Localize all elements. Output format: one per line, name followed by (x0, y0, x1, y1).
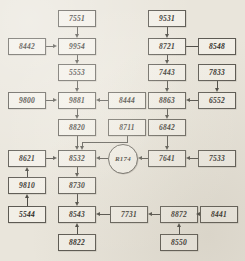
node-8550[interactable]: 8550 (160, 234, 198, 251)
arrowhead-9810-8621 (25, 167, 29, 171)
node-8442[interactable]: 8442 (8, 38, 46, 55)
node-9800[interactable]: 9800 (8, 92, 46, 109)
node-label: R174 (115, 155, 131, 162)
node-9954[interactable]: 9954 (58, 38, 96, 55)
node-8543[interactable]: 8543 (58, 206, 96, 223)
node-8820[interactable]: 8820 (58, 119, 96, 136)
node-label: 8863 (159, 97, 175, 105)
node-label: 9531 (159, 15, 175, 22)
node-8441[interactable]: 8441 (200, 206, 238, 223)
arrowhead-9800-9881 (53, 98, 57, 102)
edge-7443-8863 (167, 81, 168, 88)
node-9531[interactable]: 9531 (148, 10, 186, 27)
node-8730[interactable]: 8730 (58, 177, 96, 194)
node-8548[interactable]: 8548 (198, 38, 236, 55)
node-label: 8550 (171, 239, 187, 247)
node-8872[interactable]: 8872 (160, 206, 198, 223)
node-label: 8820 (69, 124, 85, 132)
node-7641[interactable]: 7641 (148, 150, 186, 167)
arrowhead-9881-8820 (75, 115, 79, 119)
arrowhead-5544-9810 (25, 194, 29, 198)
arrowhead-8863-6842 (165, 115, 169, 119)
arrowhead-8711-8532 (80, 146, 84, 150)
node-label: 8442 (19, 43, 35, 51)
node-label: 9954 (69, 43, 85, 51)
node-label: 6552 (209, 97, 225, 105)
node-9881[interactable]: 9881 (58, 92, 96, 109)
arrowhead-7443-8863 (165, 88, 169, 92)
node-8621[interactable]: 8621 (8, 150, 46, 167)
node-8822[interactable]: 8822 (58, 234, 96, 251)
node-8721[interactable]: 8721 (148, 38, 186, 55)
node-label: 7533 (209, 155, 225, 163)
arrowhead-7641-R174 (138, 156, 142, 160)
edge-8822-8543 (77, 227, 78, 234)
node-label: 5553 (69, 69, 85, 77)
node-label: 8872 (171, 211, 187, 219)
node-label: 8621 (19, 155, 35, 163)
arrowhead-8550-8872 (177, 223, 181, 227)
arrowhead-8621-8532 (53, 156, 57, 160)
flowchart-canvas: 7551 8442 9954 5553 9800 9881 8444 8820 … (0, 0, 245, 261)
node-8711[interactable]: 8711 (108, 119, 146, 136)
node-label: 7641 (159, 155, 175, 163)
arrowhead-7833-6552 (215, 88, 219, 92)
arrowhead-6552-8863 (186, 98, 190, 102)
edge-6552-8863 (190, 100, 198, 101)
arrowhead-6842-7641 (165, 146, 169, 150)
edge-7533-7641 (190, 158, 198, 159)
node-label: 7551 (69, 15, 85, 22)
node-label: 5544 (19, 211, 35, 219)
arrowhead-8872-7731 (148, 212, 152, 216)
arrowhead-8444-9881 (96, 98, 100, 102)
edge-8730-8543 (77, 194, 78, 202)
node-label: 8532 (69, 155, 85, 163)
arrowhead-8721-7443 (165, 60, 169, 64)
node-label: 9810 (19, 182, 35, 190)
arrowhead-8441-8872 (196, 212, 200, 216)
edge-R174-8532 (100, 158, 108, 159)
edge-8820-8532 (77, 136, 78, 146)
arrowhead-8730-8543 (75, 202, 79, 206)
node-6842[interactable]: 6842 (148, 119, 186, 136)
node-8532[interactable]: 8532 (58, 150, 96, 167)
edge-5553-9881 (77, 81, 78, 88)
node-label: 8822 (69, 239, 85, 247)
node-6552[interactable]: 6552 (198, 92, 236, 109)
node-label: 8730 (69, 182, 85, 190)
node-8863[interactable]: 8863 (148, 92, 186, 109)
node-label: 7443 (159, 69, 175, 77)
edge-6842-7641 (167, 136, 168, 146)
node-9810[interactable]: 9810 (8, 177, 46, 194)
arrowhead-8532-8730 (75, 173, 79, 177)
arrowhead-8822-8543 (75, 223, 79, 227)
node-7731[interactable]: 7731 (110, 206, 148, 223)
node-label: 7833 (209, 69, 225, 77)
node-5544[interactable]: 5544 (8, 206, 46, 223)
edge-5544-9810 (27, 198, 28, 206)
node-5553[interactable]: 5553 (58, 64, 96, 81)
node-7833[interactable]: 7833 (198, 64, 236, 81)
node-label: 7731 (121, 211, 137, 219)
edge-8872-7731 (152, 214, 160, 215)
edge-7731-8543 (100, 214, 110, 215)
node-7551[interactable]: 7551 (58, 10, 96, 27)
arrowhead-R174-8532 (96, 156, 100, 160)
node-label: 8548 (209, 43, 225, 51)
arrowhead-7551-9954 (75, 34, 79, 38)
arrowhead-9954-5553 (75, 60, 79, 64)
node-R174[interactable]: R174 (108, 144, 138, 174)
node-label: 8721 (159, 43, 175, 51)
edge-8444-9881 (100, 100, 108, 101)
node-7443[interactable]: 7443 (148, 64, 186, 81)
node-label: 9800 (19, 97, 35, 105)
arrowhead-8442-9954 (53, 44, 57, 48)
arrowhead-5553-9881 (75, 88, 79, 92)
node-label: 9881 (69, 97, 85, 105)
arrowhead-8820-8532 (75, 146, 79, 150)
arrowhead-9531-8721 (165, 34, 169, 38)
node-7533[interactable]: 7533 (198, 150, 236, 167)
edge-8711-elbow-horizontal (82, 142, 128, 143)
arrowhead-7731-8543 (96, 212, 100, 216)
node-8444[interactable]: 8444 (108, 92, 146, 109)
